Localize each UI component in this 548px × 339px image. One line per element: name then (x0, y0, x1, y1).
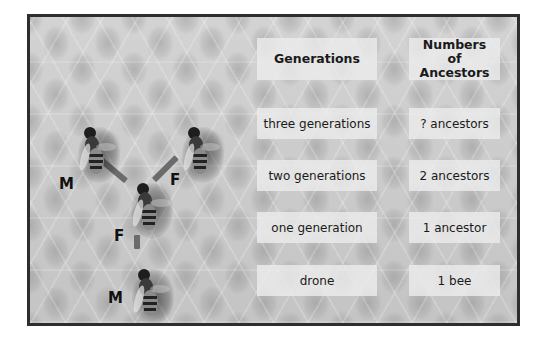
generation-text: one generation (271, 221, 362, 235)
ancestor-text: 2 ancestors (420, 169, 490, 183)
bee-icon (180, 121, 226, 183)
ancestor-text: ? ancestors (420, 117, 489, 131)
bee-label-grandfather: M (59, 175, 74, 193)
ancestors-header: Numbers of Ancestors (409, 38, 500, 80)
bee-icon (130, 263, 176, 325)
ancestor-count-drone: 1 bee (409, 265, 500, 296)
bee-label-mother: F (114, 227, 124, 245)
bee-icon (129, 177, 175, 239)
bee-mother (129, 177, 175, 239)
bee-icon (76, 121, 122, 183)
diagram-frame: Generations Numbers of Ancestors three g… (27, 14, 520, 326)
ancestor-text: 1 bee (438, 274, 472, 288)
generations-header: Generations (257, 38, 377, 80)
generation-label-drone: drone (257, 265, 377, 296)
generations-header-text: Generations (274, 52, 360, 66)
ancestors-header-text: Numbers of Ancestors (415, 38, 495, 80)
generation-text: three generations (263, 117, 370, 131)
ancestor-text: 1 ancestor (423, 221, 487, 235)
generation-text: drone (300, 274, 335, 288)
generation-label-two: two generations (257, 160, 377, 191)
ancestor-count-one: 1 ancestor (409, 212, 500, 243)
generation-label-three: three generations (257, 108, 377, 139)
generation-text: two generations (268, 169, 365, 183)
ancestor-count-two: 2 ancestors (409, 160, 500, 191)
bee-label-drone: M (108, 289, 123, 307)
bee-grandmother (180, 121, 226, 183)
ancestor-count-three: ? ancestors (409, 108, 500, 139)
bee-drone (130, 263, 176, 325)
generation-label-one: one generation (257, 212, 377, 243)
bee-grandfather (76, 121, 122, 183)
